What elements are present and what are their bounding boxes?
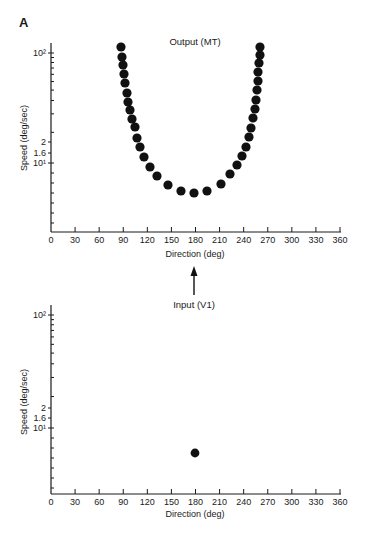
x-tick-label: 90	[118, 235, 128, 245]
x-tick-label: 60	[94, 235, 104, 245]
x-tick-label: 150	[164, 235, 179, 245]
data-point	[122, 88, 131, 97]
data-point	[237, 151, 246, 160]
data-point	[250, 104, 259, 113]
data-point	[127, 114, 136, 123]
data-point	[251, 95, 260, 104]
x-tick-label: 120	[140, 235, 155, 245]
x-tick-label: 180	[188, 497, 203, 507]
x-tick-label: 0	[48, 235, 53, 245]
y-tick-label: 1.6	[33, 148, 46, 158]
data-point	[216, 179, 225, 188]
panel-label: A	[19, 15, 29, 30]
x-axis-label: Direction (deg)	[165, 249, 224, 259]
x-tick-label: 360	[332, 235, 347, 245]
data-point	[176, 186, 185, 195]
x-tick-labels: 0306090120150180210240270300330360	[48, 497, 347, 507]
data-points	[116, 42, 264, 197]
data-point	[119, 69, 128, 78]
x-tick-label: 210	[212, 497, 227, 507]
x-tick-labels: 0306090120150180210240270300330360	[48, 235, 347, 245]
x-tick-label: 120	[140, 497, 155, 507]
data-point	[254, 58, 263, 67]
figure: A Output (MT) 10² 2 1.6 10¹ Speed (deg/s…	[0, 0, 369, 535]
x-ticks	[75, 489, 340, 494]
x-tick-label: 150	[164, 497, 179, 507]
data-point	[163, 180, 172, 189]
y-tick-label: 10¹	[33, 423, 46, 433]
x-tick-label: 300	[284, 235, 299, 245]
chart-title: Input (V1)	[173, 299, 215, 310]
data-points	[191, 449, 200, 458]
data-point	[248, 113, 257, 122]
up-arrow-icon	[191, 266, 198, 295]
x-axis-label: Direction (deg)	[165, 509, 224, 519]
data-point	[253, 76, 262, 85]
data-point	[225, 169, 234, 178]
y-axis-label: Speed (deg/sec)	[19, 105, 29, 171]
data-point	[255, 42, 264, 51]
x-tick-label: 270	[260, 235, 275, 245]
x-ticks	[75, 227, 340, 232]
x-tick-label: 30	[70, 497, 80, 507]
y-axis-label: Speed (deg/sec)	[19, 369, 29, 435]
data-point	[191, 449, 200, 458]
data-point	[255, 50, 264, 59]
data-point	[145, 162, 154, 171]
data-point	[244, 132, 253, 141]
x-tick-label: 270	[260, 497, 275, 507]
x-tick-label: 360	[332, 497, 347, 507]
y-tick-label: 2	[41, 403, 46, 413]
x-tick-label: 60	[94, 497, 104, 507]
data-point	[189, 188, 198, 197]
data-point	[132, 133, 141, 142]
data-point	[135, 142, 144, 151]
x-tick-label: 240	[236, 235, 251, 245]
data-point	[232, 160, 241, 169]
x-tick-label: 240	[236, 497, 251, 507]
data-point	[252, 85, 261, 94]
y-tick-label: 10¹	[33, 158, 46, 168]
y-tick-label: 10²	[33, 48, 46, 58]
x-tick-label: 90	[118, 497, 128, 507]
data-point	[125, 105, 134, 114]
data-point	[253, 67, 262, 76]
x-tick-label: 180	[188, 235, 203, 245]
x-tick-label: 210	[212, 235, 227, 245]
y-tick-label: 10²	[33, 310, 46, 320]
x-tick-label: 30	[70, 235, 80, 245]
data-point	[241, 142, 250, 151]
data-point	[202, 186, 211, 195]
data-point	[130, 122, 139, 131]
data-point	[120, 78, 129, 87]
y-tick-label: 1.6	[33, 413, 46, 423]
data-point	[152, 171, 161, 180]
x-tick-label: 300	[284, 497, 299, 507]
data-point	[117, 52, 126, 61]
data-point	[118, 60, 127, 69]
data-point	[139, 152, 148, 161]
x-tick-label: 330	[308, 497, 323, 507]
data-point	[246, 123, 255, 132]
y-tick-label: 2	[41, 137, 46, 147]
data-point	[123, 97, 132, 106]
x-tick-label: 330	[308, 235, 323, 245]
chart-title: Output (MT)	[169, 36, 220, 47]
data-point	[116, 42, 125, 51]
x-tick-label: 0	[48, 497, 53, 507]
input-v1-chart: Input (V1) 10² 2 1.6 10¹ Speed (deg/sec)…	[19, 299, 348, 519]
output-mt-chart: Output (MT) 10² 2 1.6 10¹ Speed (deg/sec…	[19, 36, 348, 259]
